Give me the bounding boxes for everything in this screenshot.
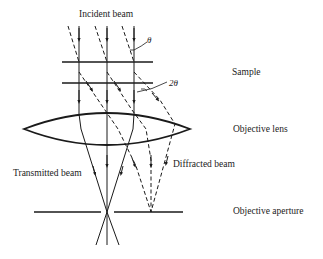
objective-lens-label: Objective lens (233, 125, 288, 135)
objective-aperture-label: Objective aperture (233, 207, 303, 217)
incident-beam-label: Incident beam (79, 10, 133, 20)
diffracted-arrows (86, 81, 168, 166)
theta-label: θ (147, 36, 151, 45)
transmitted-beam-label: Transmitted beam (13, 169, 82, 179)
diffracted-beam-label: Diffracted beam (173, 160, 235, 170)
sample-label: Sample (232, 68, 261, 78)
two-theta-label: 2θ (169, 79, 178, 88)
angle-markers (130, 42, 167, 92)
